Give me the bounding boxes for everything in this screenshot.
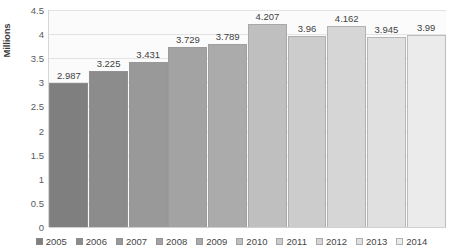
bar-chart: Millions 00.511.522.533.544.5 2.9873.225…	[0, 0, 463, 251]
bar-2006[interactable]	[89, 71, 128, 227]
y-axis-tick: 2.5	[16, 101, 44, 112]
legend-item-label: 2006	[86, 236, 107, 247]
legend-swatch-icon	[36, 238, 43, 245]
bar-2014[interactable]	[407, 35, 446, 227]
legend-swatch-icon	[276, 238, 283, 245]
legend-item-2007[interactable]: 2007	[116, 236, 147, 247]
y-axis-title-label: Millions	[2, 23, 13, 57]
legend-item-label: 2011	[286, 236, 306, 247]
y-axis-tick: 3	[16, 77, 44, 88]
bar-2010[interactable]	[248, 24, 287, 227]
legend-swatch-icon	[356, 238, 363, 245]
legend-item-label: 2012	[326, 236, 347, 247]
legend-item-2013[interactable]: 2013	[356, 236, 387, 247]
legend-item-label: 2009	[206, 236, 227, 247]
legend-swatch-icon	[316, 238, 323, 245]
legend-swatch-icon	[116, 238, 123, 245]
legend-item-2005[interactable]: 2005	[36, 236, 67, 247]
legend-item-label: 2014	[406, 236, 427, 247]
plot-area: 2.9873.2253.4313.7293.7894.2073.964.1623…	[48, 10, 446, 227]
bar-value-label: 3.789	[208, 31, 248, 42]
bar-2008[interactable]	[168, 47, 207, 227]
gridline	[49, 227, 446, 228]
bar-value-label: 2.987	[49, 70, 89, 81]
bar-value-label: 3.96	[287, 23, 327, 34]
legend-swatch-icon	[196, 238, 203, 245]
legend-item-2008[interactable]: 2008	[156, 236, 187, 247]
y-axis-tick: 1.5	[16, 149, 44, 160]
bar-2013[interactable]	[367, 37, 406, 227]
legend-swatch-icon	[396, 238, 403, 245]
chart-legend: 2005200620072008200920102011201220132014	[0, 232, 463, 251]
legend-swatch-icon	[76, 238, 83, 245]
bar-2011[interactable]	[288, 36, 327, 227]
y-axis-title: Millions	[0, 8, 14, 72]
bar-value-label: 3.729	[168, 34, 208, 45]
legend-item-2012[interactable]: 2012	[316, 236, 347, 247]
bar-2007[interactable]	[129, 62, 168, 227]
y-axis-tick: 0.5	[16, 197, 44, 208]
legend-item-2006[interactable]: 2006	[76, 236, 107, 247]
y-axis-tick: 1	[16, 173, 44, 184]
bar-value-label: 4.207	[248, 11, 288, 22]
legend-swatch-icon	[236, 238, 243, 245]
legend-item-2009[interactable]: 2009	[196, 236, 227, 247]
bar-value-label: 3.99	[406, 22, 446, 33]
legend-item-label: 2007	[126, 236, 147, 247]
bar-2009[interactable]	[208, 44, 247, 227]
legend-item-label: 2008	[166, 236, 187, 247]
bar-2012[interactable]	[327, 26, 366, 227]
bars-layer: 2.9873.2253.4313.7293.7894.2073.964.1623…	[49, 10, 446, 227]
legend-swatch-icon	[156, 238, 163, 245]
legend-item-label: 2005	[46, 236, 67, 247]
bar-value-label: 3.431	[128, 49, 168, 60]
bar-2005[interactable]	[49, 83, 88, 227]
bar-value-label: 4.162	[327, 13, 367, 24]
y-axis-tick: 3.5	[16, 53, 44, 64]
bar-value-label: 3.225	[89, 58, 129, 69]
bar-value-label: 3.945	[367, 24, 407, 35]
legend-item-2011[interactable]: 2011	[276, 236, 306, 247]
y-axis-tick: 4	[16, 29, 44, 40]
y-axis-tick-labels: 00.511.522.533.544.5	[16, 0, 44, 251]
y-axis-tick: 0	[16, 222, 44, 233]
legend-item-label: 2013	[366, 236, 387, 247]
legend-item-2014[interactable]: 2014	[396, 236, 427, 247]
legend-item-label: 2010	[246, 236, 267, 247]
legend-item-2010[interactable]: 2010	[236, 236, 267, 247]
y-axis-tick: 2	[16, 125, 44, 136]
y-axis-tick: 4.5	[16, 5, 44, 16]
